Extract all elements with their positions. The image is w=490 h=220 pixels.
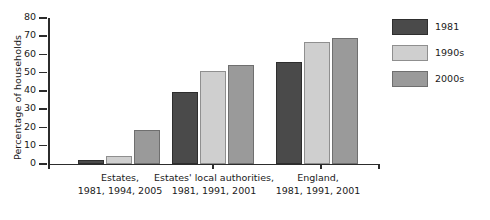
x-axis-group-label: England,1981, 1991, 2001 (228, 172, 408, 197)
legend-item[interactable]: 1981 (392, 18, 488, 35)
y-axis-title: Percentage of households (12, 23, 23, 173)
y-tick-mark (39, 90, 47, 92)
x-axis-group-label-line: 1981, 1991, 2001 (228, 185, 408, 198)
y-tick-mark (39, 54, 47, 56)
y-tick-label: 50 (6, 66, 36, 77)
y-tick-label: 30 (6, 102, 36, 113)
plot-area: 01020304050607080 (48, 18, 378, 164)
y-tick-mark (39, 35, 47, 37)
bar-chart-figure: Percentage of households 010203040506070… (0, 0, 490, 220)
y-tick-label: 80 (6, 11, 36, 22)
medium-gray-swatch (392, 71, 428, 87)
legend-item-label: 1981 (435, 21, 459, 32)
bar (106, 156, 132, 164)
bar (304, 42, 330, 164)
y-tick-label: 20 (6, 121, 36, 132)
x-axis-tick (48, 164, 50, 169)
y-tick-label: 70 (6, 29, 36, 40)
y-tick-mark (39, 17, 47, 19)
y-tick-label: 60 (6, 48, 36, 59)
legend-item[interactable]: 2000s (392, 70, 488, 87)
y-tick-mark (39, 145, 47, 147)
y-tick-mark (39, 163, 47, 165)
y-tick-label: 40 (6, 84, 36, 95)
bar (332, 38, 358, 164)
dark-gray-swatch (392, 19, 428, 35)
bar (200, 71, 226, 164)
legend-item-label: 2000s (435, 73, 464, 84)
bar (276, 62, 302, 164)
y-tick-mark (39, 108, 47, 110)
x-axis-tick (212, 164, 214, 169)
bars-layer (48, 18, 378, 164)
y-tick-mark (39, 127, 47, 129)
y-tick-mark (39, 72, 47, 74)
y-tick-label: 10 (6, 139, 36, 150)
x-axis-tick (378, 164, 380, 169)
legend-item-label: 1990s (435, 47, 464, 58)
bar (228, 65, 254, 164)
legend-item[interactable]: 1990s (392, 44, 488, 61)
bar (78, 160, 104, 164)
chart-legend: 19811990s2000s (392, 18, 488, 96)
bar (134, 130, 160, 164)
y-tick-label: 0 (6, 157, 36, 168)
x-axis-group-label-line: England, (228, 172, 408, 185)
light-gray-swatch (392, 45, 428, 61)
x-axis-tick (320, 164, 322, 169)
bar (172, 92, 198, 164)
